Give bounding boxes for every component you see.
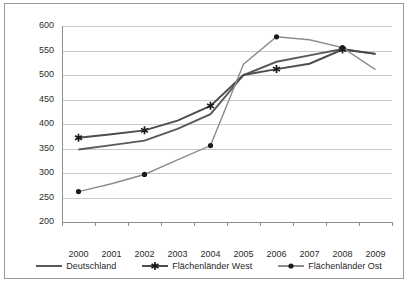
legend-item[interactable]: Deutschland	[36, 261, 116, 271]
data-point-marker	[76, 189, 81, 194]
y-axis-tick-label: 500	[10, 70, 54, 79]
data-point-marker	[274, 34, 279, 39]
circle-marker-icon	[286, 261, 296, 271]
legend-swatch	[142, 261, 168, 271]
x-axis-tick	[392, 222, 393, 226]
y-axis-tick-label: 350	[10, 144, 54, 153]
y-axis-tick-label: 550	[10, 46, 54, 55]
legend-label: Flächenländer Ost	[308, 261, 382, 271]
y-axis-tick-label: 600	[10, 21, 54, 30]
legend-item[interactable]: Flächenländer West	[142, 261, 252, 271]
legend-swatch	[278, 261, 304, 271]
data-point-marker	[142, 172, 147, 177]
legend-label: Flächenländer West	[172, 261, 252, 271]
series-lines	[62, 26, 392, 223]
y-axis-tick-label: 300	[10, 168, 54, 177]
star-marker-icon	[150, 261, 160, 271]
plot-area: 200250300350400450500550600 200020012002…	[62, 26, 392, 222]
y-axis-tick-label: 400	[10, 119, 54, 128]
legend-swatch	[36, 261, 62, 271]
legend-label: Deutschland	[66, 261, 116, 271]
data-point-marker	[208, 143, 213, 148]
series-line	[79, 49, 376, 149]
y-axis-tick-label: 200	[10, 217, 54, 226]
data-point-marker	[340, 45, 345, 50]
chart-frame: 200250300350400450500550600 200020012002…	[4, 3, 404, 279]
series-line	[79, 37, 376, 192]
chart-legend: DeutschlandFlächenländer WestFlächenländ…	[9, 256, 409, 276]
y-axis-tick-label: 250	[10, 193, 54, 202]
legend-item[interactable]: Flächenländer Ost	[278, 261, 382, 271]
legend-line	[36, 265, 62, 267]
y-axis-tick-label: 450	[10, 95, 54, 104]
